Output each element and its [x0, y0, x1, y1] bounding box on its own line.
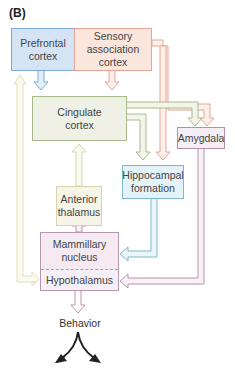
arrow-cingulate-to-hippocampal: [126, 114, 150, 160]
node-label: formation: [122, 182, 183, 195]
node-hippocampal-formation: Hippocampal formation: [122, 165, 184, 199]
node-label: association: [87, 43, 140, 56]
node-label: Hypothalamus: [46, 274, 113, 287]
node-prefrontal-cortex: Prefrontal cortex: [11, 28, 75, 71]
node-amygdala: Amygdala: [177, 127, 225, 149]
node-label: Hippocampal: [122, 169, 183, 182]
node-label: Mammillary: [53, 238, 107, 251]
node-label: Sensory: [87, 30, 140, 43]
arrow-thalamus-to-cingulate: [72, 144, 86, 186]
node-mammillary-hypothalamus-group: Mammillary nucleus Hypothalamus: [40, 232, 119, 291]
behavior-split-arrows: [62, 332, 94, 358]
arrow-prefrontal-to-cingulate: [34, 70, 48, 90]
node-cingulate-cortex: Cingulate cortex: [32, 96, 127, 141]
node-label: cortex: [57, 119, 101, 132]
node-label: Anterior: [58, 193, 101, 206]
node-label: thalamus: [58, 206, 101, 219]
behavior-label: Behavior: [55, 317, 105, 329]
node-label: Cingulate: [57, 106, 101, 119]
arrow-hippocampal-to-mammillary: [120, 198, 157, 261]
node-label: Prefrontal: [20, 37, 66, 50]
node-anterior-thalamus: Anterior thalamus: [56, 186, 102, 226]
node-label: cortex: [87, 56, 140, 69]
node-hypothalamus: Hypothalamus: [41, 270, 118, 290]
node-label: Amygdala: [178, 132, 225, 145]
node-mammillary-nucleus: Mammillary nucleus: [41, 233, 118, 269]
node-label: cortex: [20, 50, 66, 63]
arrow-sensory-to-cingulate: [105, 70, 119, 90]
arrow-hypothalamus-to-behavior: [71, 290, 85, 313]
node-sensory-association-cortex: Sensory association cortex: [74, 28, 152, 71]
node-label: nucleus: [53, 251, 107, 264]
